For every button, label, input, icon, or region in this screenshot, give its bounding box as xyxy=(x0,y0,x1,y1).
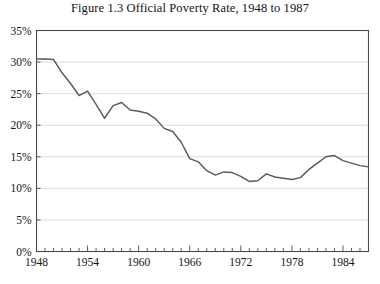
x-axis-ticks-group xyxy=(37,246,369,252)
y-axis-tick-label: 5% xyxy=(16,214,32,226)
x-axis-tick-label: 1966 xyxy=(178,256,201,268)
y-axis-labels-group: 0%5%10%15%20%25%30%35% xyxy=(10,25,32,258)
data-series-group xyxy=(37,59,369,182)
y-axis-tick-label: 10% xyxy=(10,182,32,194)
y-axis-tick-label: 15% xyxy=(10,151,32,163)
x-axis-labels-group: 1948195419601966197219781984 xyxy=(25,256,355,268)
series-line-official-poverty-rate xyxy=(37,59,369,182)
y-axis-tick-label: 25% xyxy=(10,88,32,100)
x-axis-tick-label: 1972 xyxy=(229,256,252,268)
x-axis-tick-label: 1948 xyxy=(25,256,48,268)
x-axis-tick-label: 1954 xyxy=(76,256,99,268)
y-axis-tick-label: 35% xyxy=(10,25,32,37)
y-axis-tick-label: 20% xyxy=(10,119,32,131)
plot-frame xyxy=(37,31,369,252)
line-chart-plot: 0%5%10%15%20%25%30%35% 19481954196019661… xyxy=(0,0,380,284)
x-axis-tick-label: 1978 xyxy=(280,256,303,268)
y-axis-tick-label: 30% xyxy=(10,56,32,68)
y-axis-ticks-group xyxy=(37,31,41,252)
x-axis-tick-label: 1960 xyxy=(127,256,150,268)
x-axis-tick-label: 1984 xyxy=(331,256,354,268)
chart-container: Figure 1.3 Official Poverty Rate, 1948 t… xyxy=(0,0,380,284)
gridlines-group xyxy=(37,62,369,220)
